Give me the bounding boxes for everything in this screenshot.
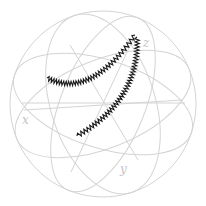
bloch-sphere-canvas: x y z xyxy=(0,0,206,206)
sphere-grid xyxy=(0,0,205,206)
axis-label-x: x xyxy=(22,113,29,127)
axis-label-y: y xyxy=(119,162,127,176)
trajectory-1 xyxy=(47,35,135,86)
bloch-sphere-figure: x y z xyxy=(0,0,206,206)
trajectories xyxy=(47,35,139,136)
axis-label-z: z xyxy=(142,36,150,50)
